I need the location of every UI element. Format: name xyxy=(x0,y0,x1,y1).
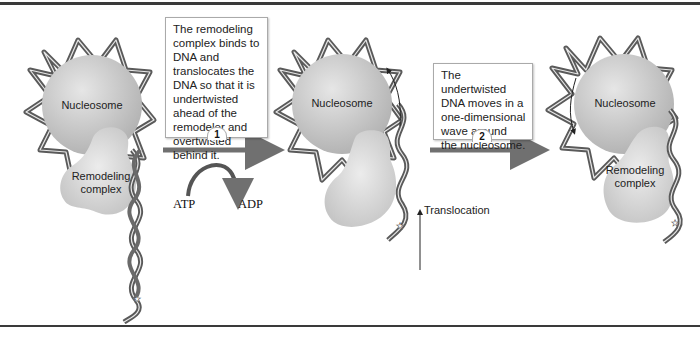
remodeler-line1: Remodeling xyxy=(66,170,136,183)
atp-adp-curve xyxy=(188,165,238,196)
nucleosome-label-2: Nucleosome xyxy=(309,97,375,110)
stage-3: ★ xyxy=(548,38,680,242)
star-marker-icon: ★ xyxy=(671,218,679,228)
remodeler-label-3: Remodeling complex xyxy=(600,164,670,190)
translocation-label: Translocation xyxy=(424,204,490,217)
remodeler-line2: complex xyxy=(600,177,670,190)
atp-label: ATP xyxy=(173,197,195,212)
nucleosome-label-1: Nucleosome xyxy=(60,99,124,112)
nucleosome-label-3: Nucleosome xyxy=(592,97,658,110)
remodeler-line2: complex xyxy=(66,183,136,196)
star-marker-icon: ★ xyxy=(133,294,141,304)
remodeler-line1: Remodeling xyxy=(600,164,670,177)
step-2-badge: 2 xyxy=(472,129,492,142)
star-marker-icon: ★ xyxy=(396,221,404,231)
adp-label: ADP xyxy=(238,197,263,212)
step-1-badge: 1 xyxy=(207,127,227,140)
step-1-callout: The remodeling complex binds to DNA and … xyxy=(165,17,268,138)
stage-2: ★ xyxy=(276,40,420,270)
remodeler-label-1: Remodeling complex xyxy=(66,170,136,196)
